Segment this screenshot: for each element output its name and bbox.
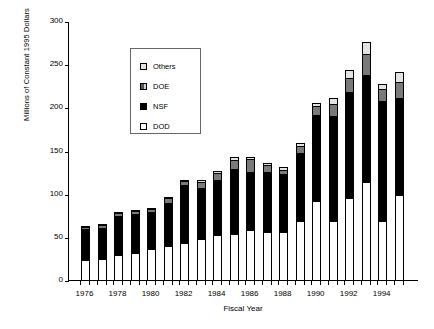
legend-item-dod: DOD <box>140 116 200 136</box>
bar-1991 <box>329 98 338 280</box>
x-tick-1978 <box>122 281 123 285</box>
x-tick-1985 <box>238 281 239 285</box>
y-tick-label: 150 <box>50 146 63 155</box>
segment-dod-1976 <box>81 260 90 281</box>
x-tick-1979 <box>130 281 131 285</box>
bar-1980 <box>147 208 156 280</box>
segment-dod-1985 <box>230 234 239 281</box>
segment-dod-1977 <box>98 259 107 281</box>
x-tick-1983 <box>205 281 206 285</box>
segment-dod-1992 <box>345 198 354 281</box>
bar-1979 <box>131 210 140 281</box>
x-tick-1980 <box>146 281 147 285</box>
x-tick-1987 <box>271 281 272 285</box>
x-tick-1984 <box>212 281 213 285</box>
x-tick-1982 <box>179 281 180 285</box>
y-tick-label: 100 <box>50 189 63 198</box>
x-tick-1995 <box>403 281 404 285</box>
segment-dod-1986 <box>246 230 255 281</box>
segment-nsf-1980 <box>147 212 156 250</box>
bar-1976 <box>81 226 90 280</box>
legend-label-nsf: NSF <box>153 102 168 111</box>
segment-nsf-1994 <box>378 101 387 222</box>
x-tick-1990 <box>320 281 321 285</box>
doe-swatch-icon <box>140 83 147 90</box>
bar-1994 <box>378 84 387 280</box>
x-tick-1982 <box>188 281 189 285</box>
x-tick-1986 <box>245 281 246 285</box>
x-tick-1993 <box>361 281 362 285</box>
y-tick-label: 200 <box>50 102 63 111</box>
segment-doe-1993 <box>362 54 371 76</box>
segment-nsf-1983 <box>197 188 206 240</box>
x-tick-1989 <box>304 281 305 285</box>
x-tick-1990 <box>311 281 312 285</box>
legend-item-others: Others <box>140 56 200 76</box>
segment-nsf-1976 <box>81 229 90 261</box>
segment-dod-1984 <box>213 235 222 281</box>
segment-dod-1978 <box>114 255 123 281</box>
segment-dod-1988 <box>279 232 288 281</box>
segment-dod-1991 <box>329 221 338 281</box>
segment-nsf-1992 <box>345 92 354 199</box>
bar-1978 <box>114 212 123 280</box>
bar-1984 <box>213 171 222 280</box>
segment-nsf-1995 <box>395 98 404 196</box>
x-tick-1991 <box>328 281 329 285</box>
x-tick-1994 <box>377 281 378 285</box>
x-tick-1981 <box>172 281 173 285</box>
bar-1995 <box>395 72 404 280</box>
others-swatch-icon <box>140 63 147 70</box>
x-tick-1983 <box>196 281 197 285</box>
segment-doe-1992 <box>345 78 354 93</box>
segment-nsf-1987 <box>263 172 272 232</box>
y-tick-label: 50 <box>54 232 63 241</box>
x-tick-1984 <box>221 281 222 285</box>
bar-series-group <box>69 22 418 280</box>
segment-nsf-1993 <box>362 75 371 183</box>
x-tick-1977 <box>97 281 98 285</box>
segment-dod-1982 <box>180 243 189 281</box>
segment-nsf-1982 <box>180 185 189 244</box>
segment-dod-1979 <box>131 253 140 281</box>
segment-nsf-1989 <box>296 153 305 222</box>
y-tick-label: 0 <box>59 275 63 284</box>
segment-nsf-1985 <box>230 169 239 235</box>
bar-1982 <box>180 180 189 280</box>
segment-dod-1990 <box>312 201 321 281</box>
x-tick-1976 <box>80 281 81 285</box>
legend-label-dod: DOD <box>153 122 170 131</box>
segment-dod-1987 <box>263 232 272 281</box>
segment-nsf-1978 <box>114 216 123 256</box>
chart-figure: Millions of Constant 1995 Dollars 050100… <box>0 0 434 329</box>
bar-1981 <box>164 197 173 280</box>
legend-item-doe: DOE <box>140 76 200 96</box>
x-tick-1992 <box>344 281 345 285</box>
bar-1977 <box>98 224 107 280</box>
bar-1985 <box>230 157 239 280</box>
segment-nsf-1991 <box>329 116 338 221</box>
segment-dod-1981 <box>164 246 173 281</box>
segment-doe-1995 <box>395 82 404 99</box>
x-tick-1985 <box>229 281 230 285</box>
segment-nsf-1984 <box>213 180 222 236</box>
x-tick-1986 <box>254 281 255 285</box>
bar-1986 <box>246 157 255 280</box>
x-tick-label-1994: 1994 <box>362 289 402 298</box>
segment-dod-1983 <box>197 239 206 281</box>
nsf-swatch-icon <box>140 103 147 110</box>
x-tick-1989 <box>295 281 296 285</box>
segment-nsf-1981 <box>164 203 173 248</box>
x-tick-1992 <box>353 281 354 285</box>
dod-swatch-icon <box>140 123 147 130</box>
bar-1983 <box>197 180 206 280</box>
legend-item-nsf: NSF <box>140 96 200 116</box>
plot-area: 050100150200250300 Others DOE NSF DOD <box>68 22 418 281</box>
x-tick-1994 <box>386 281 387 285</box>
x-axis: 1976197819801982198419861988199019921994… <box>68 281 418 321</box>
segment-dod-1993 <box>362 182 371 281</box>
segment-dod-1989 <box>296 221 305 281</box>
bar-1988 <box>279 167 288 280</box>
chart-legend: Others DOE NSF DOD <box>130 48 201 134</box>
segment-doe-1986 <box>246 159 255 173</box>
